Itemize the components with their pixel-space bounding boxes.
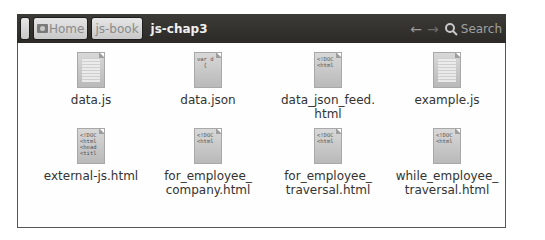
back-arrow-icon[interactable]: ← <box>410 21 422 37</box>
breadcrumb-home[interactable]: Home <box>33 17 88 40</box>
file-name: data.json <box>148 93 268 107</box>
file-item-data-json[interactable]: var d { data.json <box>148 52 268 107</box>
file-item-example-js[interactable]: example.js <box>387 52 507 107</box>
forward-arrow-icon[interactable]: → <box>427 21 439 37</box>
js-file-icon <box>433 52 461 88</box>
search-button[interactable]: Search <box>461 22 502 36</box>
file-item-for-employee-company[interactable]: <!DOC <html for_employee_ company.html <box>148 128 268 197</box>
breadcrumb-label: js-book <box>95 22 138 36</box>
file-name: external-js.html <box>31 169 151 183</box>
file-name: data_json_feed. html <box>268 93 388 121</box>
current-folder[interactable]: js-chap3 <box>151 22 208 36</box>
html-file-icon: <!DOC <html <box>314 128 342 164</box>
html-file-icon: <!DOC <html <box>433 128 461 164</box>
html-file-icon: <!DOC <html <box>194 128 222 164</box>
file-name: while_employee_ traversal.html <box>387 169 507 197</box>
file-name: example.js <box>387 93 507 107</box>
search-icon[interactable] <box>444 22 458 36</box>
file-item-data-js[interactable]: data.js <box>31 52 151 107</box>
html-file-icon: <!DOC <html <head <titl <box>77 128 105 164</box>
path-toolbar: Home js-book js-chap3 ← → Search <box>17 14 506 43</box>
html-file-icon: <!DOC <html <box>314 52 342 88</box>
file-item-while-employee-traversal[interactable]: <!DOC <html while_employee_ traversal.ht… <box>387 128 507 197</box>
breadcrumb-toggle-button[interactable] <box>20 17 30 40</box>
file-name: for_employee_ traversal.html <box>268 169 388 197</box>
js-file-icon <box>77 52 105 88</box>
text-file-icon: var d { <box>194 52 222 88</box>
file-item-for-employee-traversal[interactable]: <!DOC <html for_employee_ traversal.html <box>268 128 388 197</box>
home-icon <box>37 24 48 33</box>
breadcrumb-label: Home <box>49 22 84 36</box>
file-name: data.js <box>31 93 151 107</box>
file-item-data-json-feed[interactable]: <!DOC <html data_json_feed. html <box>268 52 388 121</box>
breadcrumb-js-book[interactable]: js-book <box>91 17 142 40</box>
file-name: for_employee_ company.html <box>148 169 268 197</box>
file-item-external-js[interactable]: <!DOC <html <head <titl external-js.html <box>31 128 151 183</box>
